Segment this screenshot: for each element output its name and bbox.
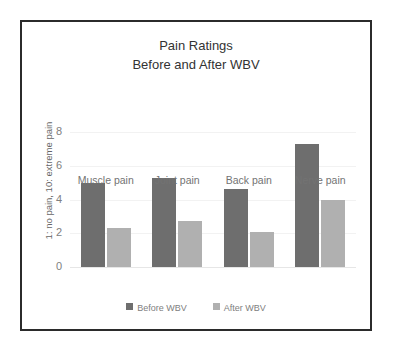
legend-swatch-icon [213, 303, 220, 310]
chart-figure: Pain Ratings Before and After WBV 1: no … [20, 20, 372, 331]
bar [224, 189, 248, 267]
bar-group [152, 122, 202, 267]
legend-item[interactable]: After WBV [213, 302, 266, 313]
x-axis-line [70, 267, 356, 268]
y-tick-label: 2 [44, 227, 62, 238]
bar [178, 221, 202, 267]
bar [321, 200, 345, 267]
bar [107, 228, 131, 267]
bar [295, 144, 319, 267]
bar-group [224, 122, 274, 267]
y-tick-label: 4 [44, 194, 62, 205]
chart-legend: Before WBVAfter WBV [22, 302, 370, 313]
legend-label: After WBV [224, 303, 266, 313]
y-tick-label: 6 [44, 160, 62, 171]
bar [250, 232, 274, 267]
legend-label: Before WBV [137, 303, 187, 313]
bar-group [81, 122, 131, 267]
legend-item[interactable]: Before WBV [126, 302, 187, 313]
bar [81, 183, 105, 267]
y-tick-label: 8 [44, 126, 62, 137]
bar [152, 178, 176, 267]
bar-group [295, 122, 345, 267]
plot-area [70, 122, 356, 267]
plot-wrapper: 1: no pain, 10: extreme pain 02468 Muscl… [22, 22, 370, 329]
y-tick-label: 0 [44, 261, 62, 272]
x-tick-label: Nerve pain [270, 174, 370, 186]
legend-swatch-icon [126, 303, 133, 310]
